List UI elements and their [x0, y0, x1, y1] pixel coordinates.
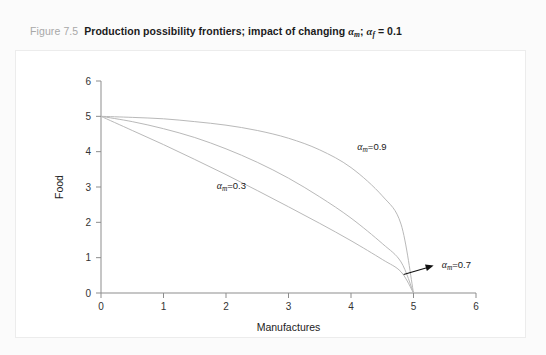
- annotation-alpha-m-03: αm=0.3: [217, 180, 246, 193]
- figure-root: Figure 7.5 Production possibility fronti…: [0, 0, 546, 355]
- y-axis-tick-labels: 0123456: [85, 76, 91, 299]
- y-tick-label-0: 0: [85, 288, 91, 299]
- x-tick-label-0: 0: [98, 301, 104, 312]
- y-tick-label-6: 6: [85, 76, 91, 87]
- x-tick-label-1: 1: [161, 301, 167, 312]
- annotation-alpha-m-09: αm=0.9: [357, 141, 386, 154]
- ppf-curve-m03: [101, 116, 414, 293]
- y-axis-ticks: [96, 81, 101, 293]
- y-tick-label-3: 3: [85, 182, 91, 193]
- annotation-label-alpha-m-07: αm=0.7: [442, 259, 471, 272]
- x-tick-label-3: 3: [286, 301, 292, 312]
- y-tick-label-5: 5: [85, 111, 91, 122]
- annotation-arrow-line-alpha-m-07: [404, 268, 428, 275]
- x-axis-ticks: [101, 293, 476, 298]
- figure-caption: Figure 7.5 Production possibility fronti…: [30, 24, 500, 44]
- plot-panel: 0123456 0123456 αm=0.9αm=0.3αm=0.7 Manuf…: [15, 50, 526, 338]
- annotation-alpha-m-07: αm=0.7: [404, 259, 471, 275]
- ppf-curve-m09: [101, 116, 414, 293]
- ppf-curve-m07: [101, 116, 414, 293]
- x-tick-label-5: 5: [411, 301, 417, 312]
- figure-number: Figure 7.5: [30, 25, 78, 37]
- y-tick-label-2: 2: [85, 217, 91, 228]
- y-tick-label-1: 1: [85, 252, 91, 263]
- x-axis-tick-labels: 0123456: [98, 301, 479, 312]
- ppf-curves: [101, 116, 414, 293]
- x-tick-label-2: 2: [223, 301, 229, 312]
- y-tick-label-4: 4: [85, 146, 91, 157]
- x-axis-title: Manufactures: [257, 321, 321, 333]
- x-tick-label-6: 6: [473, 301, 479, 312]
- annotation-label-alpha-m-03: αm=0.3: [217, 180, 246, 193]
- annotation-arrow-head-alpha-m-07: [425, 265, 434, 272]
- annotation-label-alpha-m-09: αm=0.9: [357, 141, 386, 154]
- x-tick-label-4: 4: [348, 301, 354, 312]
- caption-alpha-f-value: = 0.1: [375, 25, 402, 37]
- chart-svg: 0123456 0123456 αm=0.9αm=0.3αm=0.7 Manuf…: [16, 51, 525, 337]
- y-axis-title: Food: [53, 175, 65, 199]
- figure-caption-text: Production possibility frontiers; impact…: [84, 25, 348, 37]
